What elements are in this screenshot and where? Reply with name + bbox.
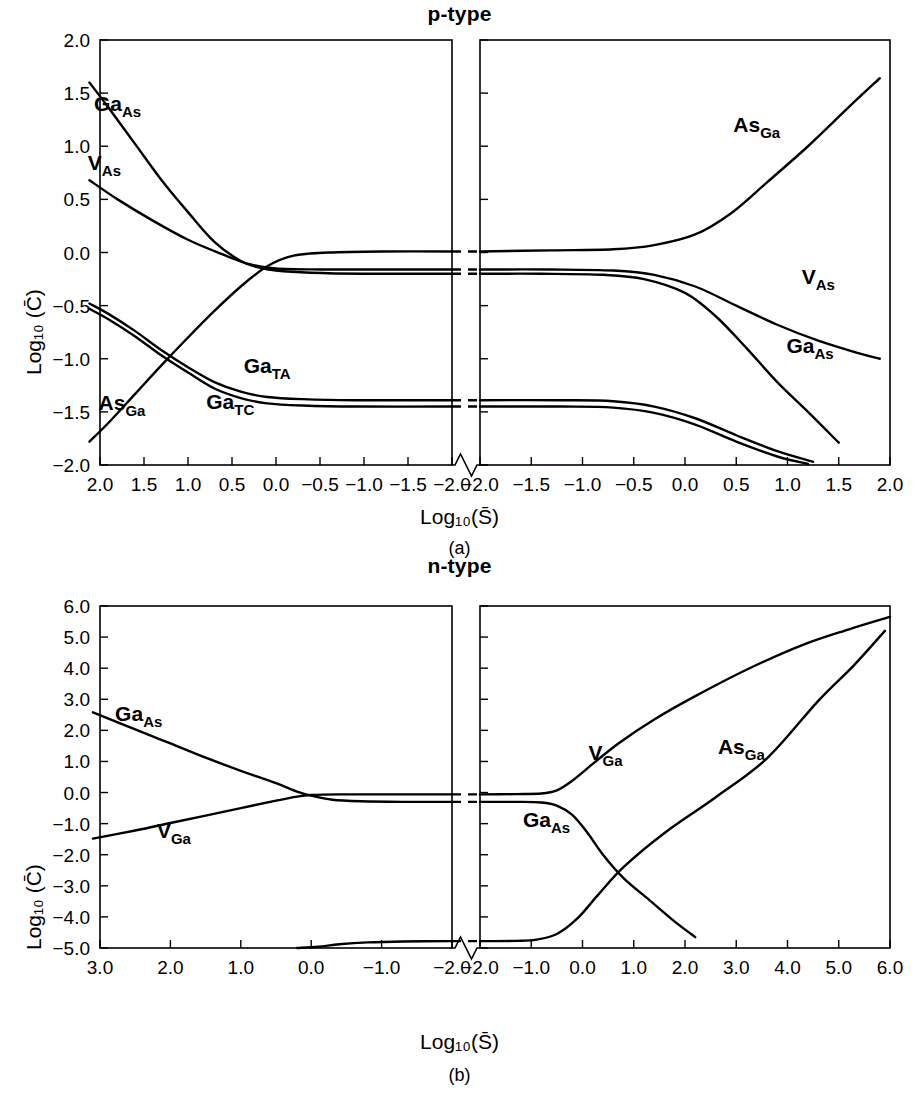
- p-type-y-tick-label: −2.0: [52, 455, 90, 476]
- p-type-curve-label-V-As: VAs: [802, 265, 835, 293]
- n-type-y-tick-label: −3.0: [52, 876, 90, 897]
- n-type-x-tick-label: 3.0: [87, 957, 113, 978]
- figure-root: p-type Log₁₀ (C̄) 2.01.51.00.50.0−0.5−1.…: [0, 0, 919, 1096]
- n-type-x-tick-label: 2.0: [157, 957, 183, 978]
- p-type-y-tick-label: 1.0: [64, 136, 90, 157]
- n-type-curve-As_Ga-right: [480, 631, 885, 941]
- n-type-y-tick-label: 2.0: [64, 720, 90, 741]
- p-type-y-tick-label: −1.5: [52, 402, 90, 423]
- panel-b-plot: 6.05.04.03.02.01.00.0−1.0−2.0−3.0−4.0−5.…: [0, 578, 919, 1008]
- n-type-y-tick-label: 1.0: [64, 751, 90, 772]
- p-type-x-tick-label: −0.5: [615, 474, 653, 495]
- p-type-x-tick-label: 1.5: [826, 474, 852, 495]
- p-type-x-tick-label: 1.0: [175, 474, 201, 495]
- n-type-curve-V_Ga-right: [480, 617, 890, 795]
- p-type-curve-Ga_As: [89, 83, 452, 274]
- p-type-curve-V_As: [89, 180, 452, 269]
- p-type-x-tick-label: 1.0: [774, 474, 800, 495]
- n-type-y-tick-label: −4.0: [52, 907, 90, 928]
- panel-b-caption: (b): [0, 1065, 919, 1086]
- n-type-curve-label-Ga-As: GaAs: [523, 808, 570, 836]
- p-type-y-tick-label: 0.0: [64, 243, 90, 264]
- n-type-curve-label-As-Ga: AsGa: [718, 735, 766, 763]
- p-type-x-tick-label: −1.5: [389, 474, 427, 495]
- n-type-y-tick-label: −5.0: [52, 938, 90, 959]
- panel-a-x-axis-label: Log₁₀(S̄): [0, 505, 919, 529]
- p-type-x-tick-label: 0.5: [723, 474, 749, 495]
- panel-a-plot: 2.01.51.00.50.0−0.5−1.0−1.5−2.02.01.51.0…: [0, 10, 919, 510]
- p-type-curve-Ga_As-right: [480, 274, 839, 443]
- p-type-x-tick-label: 0.0: [672, 474, 698, 495]
- p-type-curve-label-As-Ga: AsGa: [733, 113, 781, 141]
- n-type-x-tick-label: −1.0: [363, 957, 401, 978]
- n-type-x-tick-label: −2.0: [461, 957, 499, 978]
- n-type-curve-Ga_As-right: [480, 802, 695, 937]
- n-type-y-tick-label: −1.0: [52, 814, 90, 835]
- chart-panel-n-type: n-type Log₁₀ (C̄) 6.05.04.03.02.01.00.0−…: [0, 550, 919, 1096]
- n-type-x-tick-label: 5.0: [826, 957, 852, 978]
- p-type-curve-label-Ga-As: GaAs: [94, 92, 141, 120]
- p-type-x-tick-label: −0.5: [301, 474, 339, 495]
- chart-panel-p-type: p-type Log₁₀ (C̄) 2.01.51.00.50.0−0.5−1.…: [0, 0, 919, 550]
- n-type-y-tick-label: 0.0: [64, 783, 90, 804]
- n-type-y-tick-label: 6.0: [64, 596, 90, 617]
- n-type-y-tick-label: 4.0: [64, 658, 90, 679]
- n-type-x-tick-label: 6.0: [877, 957, 903, 978]
- p-type-y-tick-label: 2.0: [64, 30, 90, 51]
- p-type-x-tick-label: 0.5: [219, 474, 245, 495]
- p-type-curve-Ga_TC-right: [480, 406, 808, 463]
- p-type-x-tick-label: −1.0: [345, 474, 383, 495]
- n-type-x-tick-label: 1.0: [228, 957, 254, 978]
- p-type-x-tick-label: −1.5: [512, 474, 550, 495]
- p-type-curve-label-Ga-TA: GaTA: [244, 354, 291, 382]
- n-type-x-tick-label: 2.0: [672, 957, 698, 978]
- n-type-curve-As_Ga: [297, 941, 452, 948]
- p-type-y-tick-label: 1.5: [64, 83, 90, 104]
- n-type-y-tick-label: 5.0: [64, 627, 90, 648]
- n-type-x-tick-label: −1.0: [512, 957, 550, 978]
- p-type-x-tick-label: 2.0: [877, 474, 903, 495]
- p-type-y-tick-label: −0.5: [52, 296, 90, 317]
- n-type-curve-label-Ga-As: GaAs: [115, 702, 162, 730]
- panel-b-title: n-type: [0, 554, 919, 578]
- p-type-curve-label-Ga-As: GaAs: [786, 334, 833, 362]
- p-type-x-tick-label: 1.5: [131, 474, 157, 495]
- p-type-curve-label-V-As: VAs: [88, 151, 121, 179]
- p-type-x-tick-label: 2.0: [87, 474, 113, 495]
- p-type-x-tick-label: 0.0: [263, 474, 289, 495]
- p-type-axis-break: [452, 454, 480, 476]
- p-type-x-tick-label: −2.0: [461, 474, 499, 495]
- n-type-y-tick-label: 3.0: [64, 689, 90, 710]
- n-type-x-tick-label: 1.0: [621, 957, 647, 978]
- n-type-x-tick-label: 4.0: [774, 957, 800, 978]
- n-type-x-tick-label: 0.0: [298, 957, 324, 978]
- p-type-x-tick-label: −1.0: [564, 474, 602, 495]
- n-type-y-tick-label: −2.0: [52, 845, 90, 866]
- panel-b-x-axis-label: Log₁₀(S̄): [0, 1030, 919, 1054]
- n-type-x-tick-label: 3.0: [723, 957, 749, 978]
- p-type-curve-label-As-Ga: AsGa: [99, 391, 147, 419]
- n-type-x-tick-label: 0.0: [569, 957, 595, 978]
- p-type-y-tick-label: −1.0: [52, 349, 90, 370]
- p-type-curve-As_Ga-right: [480, 78, 880, 251]
- p-type-y-tick-label: 0.5: [64, 189, 90, 210]
